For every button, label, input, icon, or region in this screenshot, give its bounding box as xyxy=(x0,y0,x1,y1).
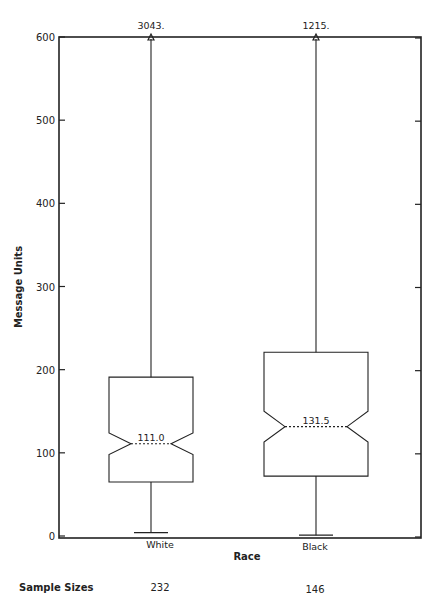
y-tick-label: 100 xyxy=(36,448,55,459)
plot-frame xyxy=(59,37,421,538)
median-label: 131.5 xyxy=(302,415,329,426)
y-axis-label: Message Units xyxy=(13,246,24,328)
box-white: 111.03043. xyxy=(109,20,193,533)
boxplot-chart: 0100200300400500600 Message Units 111.03… xyxy=(0,0,439,595)
y-tick-label: 200 xyxy=(36,365,55,376)
y-tick-label: 400 xyxy=(36,198,55,209)
y-axis-tick-labels: 0100200300400500600 xyxy=(36,32,55,542)
x-axis-label: Race xyxy=(233,551,260,562)
box-group: 111.03043.131.51215. xyxy=(109,20,368,535)
y-tick-label: 300 xyxy=(36,282,55,293)
sample-size-black: 146 xyxy=(305,584,324,595)
sample-sizes-label: Sample Sizes xyxy=(19,582,93,593)
y-tick-label: 0 xyxy=(49,531,55,542)
category-label-black: Black xyxy=(302,541,328,552)
box-black: 131.51215. xyxy=(264,20,368,535)
y-axis-ticks xyxy=(59,37,421,537)
median-label: 111.0 xyxy=(137,432,164,443)
y-tick-label: 500 xyxy=(36,115,55,126)
sample-size-white: 232 xyxy=(150,582,169,593)
category-label-white: White xyxy=(146,539,174,550)
offscale-max-label: 1215. xyxy=(302,20,329,31)
notched-box xyxy=(109,377,193,482)
offscale-max-label: 3043. xyxy=(137,20,164,31)
y-tick-label: 600 xyxy=(36,32,55,43)
